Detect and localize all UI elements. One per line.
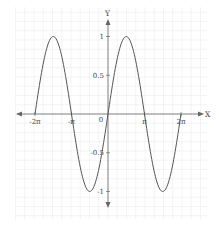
x-tick-label: 0: [99, 116, 103, 124]
y-axis-up-arrow-icon: [106, 19, 111, 25]
x-axis-left-arrow-icon: [16, 112, 22, 117]
y-axis-down-arrow-icon: [106, 202, 111, 208]
x-axis-label: X: [205, 110, 211, 119]
y-tick-label: 1: [100, 33, 104, 41]
x-axis-right-arrow-icon: [198, 112, 204, 117]
x-tick-label: 2π: [176, 118, 185, 126]
x-tick-label: -π: [68, 118, 75, 126]
grid: [15, 7, 207, 220]
sine-chart: X Y -2π-π0π2π10.5-0.5-1: [0, 0, 219, 234]
y-axis-label: Y: [104, 9, 111, 18]
y-tick-label: -1: [97, 188, 104, 196]
x-tick-label: -2π: [29, 118, 41, 126]
y-tick-label: 0.5: [93, 72, 104, 80]
